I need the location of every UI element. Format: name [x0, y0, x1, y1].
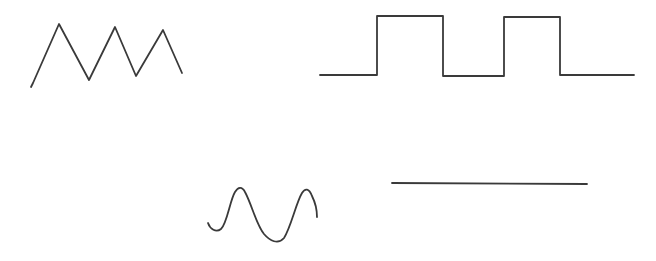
- sine-wave: [208, 188, 317, 242]
- triangle-wave: [31, 24, 182, 87]
- waveform-canvas: [0, 0, 656, 261]
- flat-line: [392, 183, 587, 184]
- square-wave: [320, 16, 634, 76]
